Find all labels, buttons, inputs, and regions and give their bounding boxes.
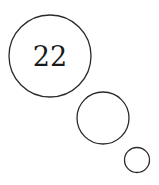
thought-bubble-diagram: 22 — [0, 0, 159, 185]
medium-bubble — [77, 92, 129, 144]
small-bubble — [125, 148, 150, 173]
bubble-number-label: 22 — [33, 41, 67, 72]
